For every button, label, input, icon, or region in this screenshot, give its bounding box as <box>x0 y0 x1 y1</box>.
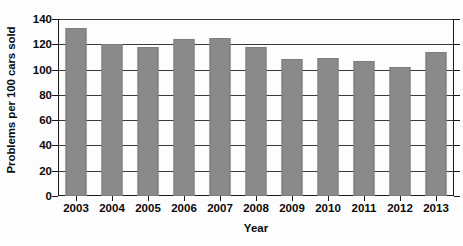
bar-slot <box>94 19 130 196</box>
x-axis-tick-label: 2005 <box>135 202 161 214</box>
x-axis-title: Year <box>58 222 454 234</box>
bar-slot <box>130 19 166 196</box>
plot-area <box>58 19 454 196</box>
x-axis-tick-label: 2007 <box>207 202 233 214</box>
x-axis-tick <box>292 196 293 201</box>
y-axis-tick-label: 140 <box>33 13 52 25</box>
y-axis-tick-label: 100 <box>33 64 52 76</box>
y-axis-tick <box>52 145 58 146</box>
x-axis-tick-labels: 2003200420052006200720082009201020112012… <box>58 202 454 220</box>
y-axis-tick <box>454 95 460 96</box>
bar <box>246 47 267 196</box>
bar-slot <box>346 19 382 196</box>
bar <box>102 44 123 196</box>
x-axis-tick-label: 2003 <box>63 202 89 214</box>
bar <box>210 38 231 196</box>
x-axis-tick <box>400 196 401 201</box>
x-axis-tick-label: 2009 <box>279 202 305 214</box>
bar <box>390 67 411 196</box>
bar <box>282 59 303 196</box>
x-axis-tick-label: 2012 <box>387 202 413 214</box>
bar-slot <box>202 19 238 196</box>
y-axis-tick-label: 120 <box>33 38 52 50</box>
x-axis-tick <box>220 196 221 201</box>
y-axis-tick <box>52 70 58 71</box>
x-axis-tick <box>328 196 329 201</box>
bar-slot <box>382 19 418 196</box>
y-axis-tick <box>454 70 460 71</box>
bar <box>318 58 339 196</box>
x-axis-tick <box>184 196 185 201</box>
bar <box>426 52 447 196</box>
y-axis-tick <box>52 120 58 121</box>
bar-slot <box>166 19 202 196</box>
x-axis-tick-label: 2010 <box>315 202 341 214</box>
x-axis-tick <box>436 196 437 201</box>
bar-slot <box>310 19 346 196</box>
x-axis-tick <box>148 196 149 201</box>
y-axis-tick <box>454 196 460 197</box>
bar <box>138 47 159 196</box>
y-axis-tick-label: 20 <box>39 165 52 177</box>
y-axis-tick-label: 60 <box>39 114 52 126</box>
bar-slot <box>238 19 274 196</box>
x-axis-tick <box>364 196 365 201</box>
y-axis-tick <box>52 19 58 20</box>
bar-slot <box>274 19 310 196</box>
x-axis-tick-label: 2008 <box>243 202 269 214</box>
bar <box>66 28 87 196</box>
y-axis-tick <box>454 44 460 45</box>
bar <box>354 61 375 196</box>
x-axis-tick-label: 2013 <box>423 202 449 214</box>
y-axis-tick <box>52 44 58 45</box>
y-axis-tick <box>454 145 460 146</box>
y-axis-tick <box>454 120 460 121</box>
y-axis-tick-label: 80 <box>39 89 52 101</box>
x-axis-tick-label: 2006 <box>171 202 197 214</box>
bar-slot <box>58 19 94 196</box>
y-axis-tick <box>52 95 58 96</box>
bar-series <box>58 19 454 196</box>
x-axis-tick <box>76 196 77 201</box>
x-axis-tick <box>112 196 113 201</box>
y-axis-tick-label: 40 <box>39 139 52 151</box>
y-axis-tick <box>52 171 58 172</box>
bar-slot <box>418 19 454 196</box>
x-axis-tick-label: 2004 <box>99 202 125 214</box>
bar <box>174 39 195 196</box>
bar-chart: Problems per 100 cars sold 0204060801001… <box>0 0 463 246</box>
y-axis-tick-labels: 020406080100120140 <box>22 0 55 246</box>
x-axis-tick <box>256 196 257 201</box>
y-axis-title-text: Problems per 100 cars sold <box>5 27 17 174</box>
x-axis-tick-label: 2011 <box>352 202 377 214</box>
y-axis-title: Problems per 100 cars sold <box>0 0 22 200</box>
y-axis-tick <box>454 19 460 20</box>
y-axis-tick <box>454 171 460 172</box>
